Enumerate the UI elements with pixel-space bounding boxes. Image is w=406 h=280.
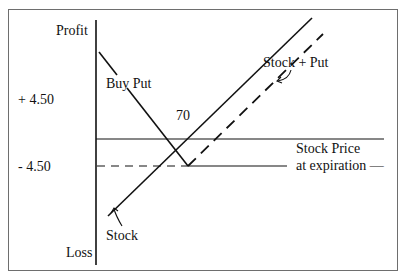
stock-price-label: Stock Price: [296, 142, 360, 156]
stock-label: Stock: [106, 229, 138, 243]
buy-put-line-lower: [127, 88, 188, 166]
plus-level-label: + 4.50: [18, 93, 54, 107]
at-expiration-label: at expiration —: [296, 159, 384, 173]
loss-axis-label: Loss: [66, 246, 92, 260]
strike-price-label: 70: [176, 109, 190, 123]
stock-line: [108, 18, 312, 216]
minus-level-label: - 4.50: [18, 160, 51, 174]
profit-axis-label: Profit: [56, 24, 88, 38]
buy-put-label: Buy Put: [106, 77, 152, 91]
stock-plus-put-label: Stock + Put: [263, 56, 328, 70]
payoff-diagram: [0, 0, 406, 280]
stock-pointer-icon: [114, 209, 122, 226]
buy-put-line-upper: [99, 52, 117, 75]
